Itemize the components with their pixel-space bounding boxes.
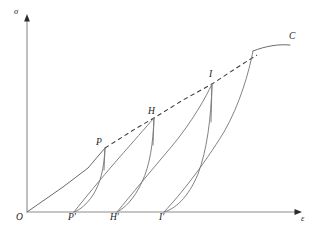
unload-stub-p	[104, 148, 105, 170]
envelope-to-c-solid	[253, 45, 290, 51]
origin-label: O	[16, 213, 23, 223]
y-axis-label: σ	[14, 7, 18, 16]
y-axis-arrowhead	[24, 14, 30, 22]
point-label-p: P	[96, 138, 102, 148]
reload-curve-hprime-to-i	[117, 84, 212, 212]
unload-stub-h	[153, 118, 154, 145]
x-axis-label: ε	[301, 214, 304, 223]
unload-curve-i-to-iprime	[164, 84, 212, 212]
loading-curve-op	[27, 148, 105, 212]
unload-stub-i	[211, 84, 212, 122]
point-label-h-prime: H′	[110, 213, 119, 223]
reload-curve-pprime-to-h	[74, 118, 154, 212]
point-label-p-prime: P′	[68, 213, 76, 223]
point-label-i-prime: I′	[159, 213, 164, 223]
point-label-h: H	[148, 107, 155, 117]
point-label-c: C	[289, 32, 295, 42]
stress-strain-figure: σ ε O P H I C P′ H′ I′	[0, 0, 320, 249]
unload-curve-h-to-hprime	[117, 118, 154, 212]
point-label-i: I	[209, 70, 212, 80]
